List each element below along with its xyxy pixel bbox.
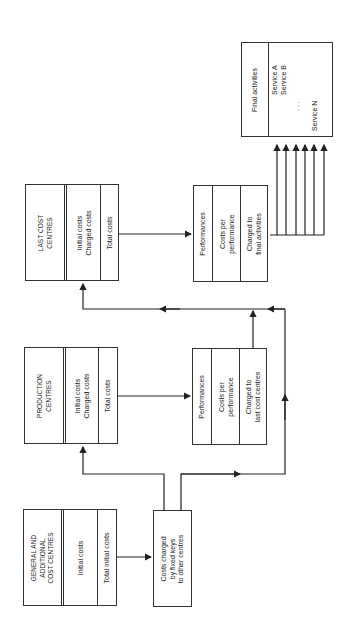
production-total-costs: Total costs (104, 379, 113, 412)
costs-charged-text: Costs charged by fixed keys to other cen… (160, 534, 186, 583)
production-costs-per-performance: Costs per performance (217, 377, 234, 416)
general-cost-centres-box: GENERAL AND ADDITIONAL COST CENTRES Init… (23, 509, 117, 606)
last-performance-box: Performances Costs per performance Charg… (193, 185, 268, 282)
last-performances: Performances (199, 212, 208, 256)
general-total-cell: Total initial costs (98, 510, 116, 605)
last-title-cell: LAST COST CENTRES (26, 185, 67, 280)
service-dots: . . . (293, 101, 300, 111)
service-n: Service N (311, 101, 318, 131)
production-performances: Performances (198, 375, 207, 419)
service-a: Service A (271, 65, 278, 95)
last-charged-cell: Charged to final activities (241, 186, 267, 281)
general-initial-costs: Initial costs (76, 540, 85, 575)
final-title-cell: Final activities (242, 43, 269, 136)
production-title-cell: PRODUCTION CENTRES (25, 348, 66, 443)
general-total-initial-costs: Total initial costs (103, 532, 112, 583)
production-performance-box: Performances Costs per performance Charg… (192, 348, 267, 445)
last-cost-centres-box: LAST COST CENTRES Initial costs Charged … (25, 184, 119, 281)
production-total-cell: Total costs (99, 348, 117, 443)
production-cost-per-cell: Costs per performance (212, 349, 240, 444)
last-initial-charged-costs: Initial costs Charged costs (75, 210, 92, 255)
production-charged-to-last: Charged to last cost centres (245, 371, 262, 422)
production-centres-box: PRODUCTION CENTRES Initial costs Charged… (24, 347, 118, 444)
production-performances-cell: Performances (193, 349, 212, 444)
last-total-cell: Total costs (101, 185, 118, 280)
production-initial-charged-costs: Initial costs Charged costs (74, 373, 91, 418)
production-charged-cell: Charged to last cost centres (240, 349, 266, 444)
last-cost-per-cell: Costs per performance (213, 186, 241, 281)
general-initial-cell: Initial costs (64, 510, 98, 605)
last-total-costs: Total costs (105, 216, 114, 249)
production-title: PRODUCTION CENTRES (36, 374, 53, 418)
final-services-cell: Service A Service B . . . Service N (269, 43, 332, 136)
final-activities-box: Final activities Service A Service B . .… (241, 42, 333, 137)
production-costs-cell: Initial costs Charged costs (66, 348, 99, 443)
general-title-cell: GENERAL AND ADDITIONAL COST CENTRES (24, 510, 64, 605)
service-b: Service B (280, 65, 287, 95)
general-title: GENERAL AND ADDITIONAL COST CENTRES (30, 532, 56, 583)
last-title: LAST COST CENTRES (37, 214, 54, 250)
last-performances-cell: Performances (194, 186, 213, 281)
final-activities-title: Final activities (251, 68, 260, 112)
costs-charged-box: Costs charged by fixed keys to other cen… (153, 510, 192, 607)
last-charged-to-final: Charged to final activities (246, 213, 263, 255)
last-costs-cell: Initial costs Charged costs (67, 185, 101, 280)
last-costs-per-performance: Costs per performance (218, 214, 235, 253)
